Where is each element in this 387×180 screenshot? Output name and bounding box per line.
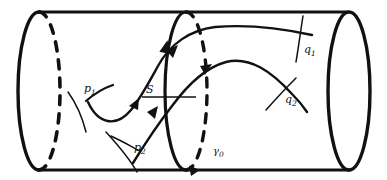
label-p1-base: p — [84, 82, 91, 95]
flow-trajectory-p1-q1 — [88, 26, 312, 121]
math-figure-cylinder: p1 p2 q1 q2 γ0 S — [0, 0, 387, 180]
label-q1-base: q — [304, 43, 311, 56]
p2-cross-mark — [106, 132, 137, 172]
flow-trajectory-p2-q2 — [133, 61, 307, 163]
figure-canvas: p1 p2 q1 q2 γ0 S — [0, 0, 387, 180]
flow1-arrowheads — [129, 45, 178, 110]
left-cap-front-arc — [18, 12, 39, 170]
flow2-path — [133, 61, 307, 163]
q1-cross-mark — [296, 16, 303, 62]
label-gamma0: γ0 — [213, 145, 224, 159]
cylinder-body — [18, 12, 370, 170]
label-p1: p1 — [84, 82, 96, 97]
label-gamma0-sub: 0 — [219, 150, 224, 159]
label-p2-sub: 2 — [140, 147, 146, 156]
label-q1-sub: 1 — [311, 49, 316, 58]
orbit-arrow-bottom-icon — [189, 166, 200, 177]
label-q2-sub: 2 — [291, 99, 297, 108]
flow2-arrowheads — [147, 64, 212, 119]
left-cap-back-arc-dashed — [39, 12, 60, 170]
label-q2-base: q — [285, 93, 292, 106]
p1-cross-mark — [68, 92, 86, 132]
label-p1-sub: 1 — [91, 88, 96, 97]
right-cap-ellipse — [328, 12, 370, 170]
label-S: S — [146, 83, 154, 96]
flow1-arrow-start-icon — [129, 98, 139, 110]
figure-labels: p1 p2 q1 q2 γ0 S — [84, 43, 316, 159]
label-q1: q1 — [304, 43, 316, 58]
flow1-path — [88, 26, 312, 121]
flow2-arrow-start-icon — [147, 106, 158, 119]
label-p2-base: p — [134, 141, 141, 154]
label-q2: q2 — [285, 93, 297, 108]
cross-marks — [68, 16, 303, 172]
